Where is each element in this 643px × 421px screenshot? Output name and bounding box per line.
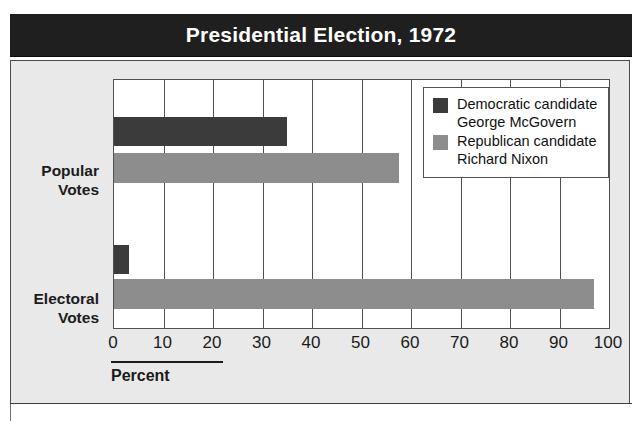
tick-label-0: 0: [108, 333, 117, 353]
legend-swatch-republican-icon: [433, 135, 448, 150]
tick-label-50: 50: [351, 333, 370, 353]
tick-label-90: 90: [549, 333, 568, 353]
bar-popular-votes-nixon: [114, 153, 399, 183]
legend-label-republican-name: Richard Nixon: [457, 151, 596, 169]
figure-bottom-rule: [10, 403, 632, 404]
tick-label-30: 30: [252, 333, 271, 353]
chart-frame: Popular Votes Electoral Votes: [10, 60, 630, 404]
legend-swatch-democratic-icon: [433, 98, 448, 113]
legend-label-republican-party: Republican candidate: [457, 133, 596, 149]
category-label-electoral-votes: Electoral Votes: [0, 289, 99, 327]
tick-label-10: 10: [153, 333, 172, 353]
category-label-popular-votes-line2: Votes: [58, 181, 99, 198]
tick-label-20: 20: [203, 333, 222, 353]
legend-label-democratic-name: George McGovern: [457, 114, 597, 132]
category-label-electoral-votes-line2: Votes: [58, 309, 99, 326]
legend-label-democratic-party: Democratic candidate: [457, 96, 597, 112]
axis-caption-percent: Percent: [111, 367, 170, 385]
category-label-electoral-votes-line1: Electoral: [34, 290, 99, 307]
election-chart-figure: Presidential Election, 1972 Popular Vote…: [0, 0, 643, 421]
category-label-popular-votes: Popular Votes: [0, 161, 99, 199]
category-label-popular-votes-line1: Popular: [41, 162, 99, 179]
legend: Democratic candidate George McGovern Rep…: [423, 87, 609, 178]
legend-item-democratic: Democratic candidate George McGovern: [433, 96, 599, 131]
page-title: Presidential Election, 1972: [186, 23, 456, 47]
tick-label-60: 60: [401, 333, 420, 353]
figure-left-rule: [10, 404, 11, 421]
legend-label-democratic: Democratic candidate George McGovern: [457, 96, 597, 131]
bar-electoral-votes-mcgovern: [114, 245, 129, 274]
tick-label-40: 40: [302, 333, 321, 353]
axis-caption-rule: [111, 361, 223, 363]
tick-label-70: 70: [450, 333, 469, 353]
legend-item-republican: Republican candidate Richard Nixon: [433, 133, 599, 168]
legend-label-republican: Republican candidate Richard Nixon: [457, 133, 596, 168]
chart-title-bar: Presidential Election, 1972: [10, 14, 632, 56]
bar-electoral-votes-nixon: [114, 279, 594, 309]
tick-label-100: 100: [594, 333, 622, 353]
bar-popular-votes-mcgovern: [114, 117, 287, 146]
tick-label-80: 80: [500, 333, 519, 353]
